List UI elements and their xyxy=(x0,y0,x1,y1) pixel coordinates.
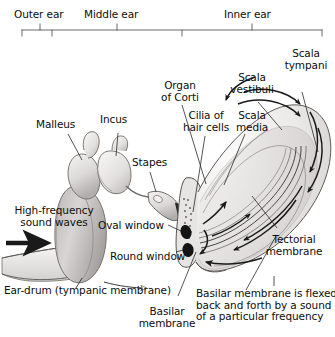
label-scala-tympani: Scala tympani xyxy=(280,48,332,71)
ear-drum-tympanic-membrane xyxy=(55,186,106,283)
label-scala-vestibuli: Scala vestibuli xyxy=(224,72,280,95)
label-incus: Incus xyxy=(100,114,127,126)
label-high-frequency-sound-waves: High-frequency sound waves xyxy=(2,205,106,228)
region-label-outer-ear: Outer ear xyxy=(14,9,63,21)
label-oval-window: Oval window xyxy=(98,220,164,232)
figure-caption: Basilar membrane is flexed back and fort… xyxy=(196,288,335,323)
label-malleus: Malleus xyxy=(36,119,75,131)
label-tectorial-membrane: Tectorial membrane xyxy=(258,234,330,257)
label-ear-drum-tympanic-membrane: Ear-drum (tympanic membrane) xyxy=(4,285,171,297)
label-cilia-of-hair-cells: Cilia of hair cells xyxy=(176,110,236,133)
region-bracket xyxy=(22,24,322,36)
label-stapes: Stapes xyxy=(132,157,167,169)
region-label-middle-ear: Middle ear xyxy=(84,9,138,21)
region-label-inner-ear: Inner ear xyxy=(224,9,271,21)
label-round-window: Round window xyxy=(110,251,185,263)
label-organ-of-corti: Organ of Corti xyxy=(152,80,208,103)
label-basilar-membrane: Basilar membrane xyxy=(136,306,198,329)
